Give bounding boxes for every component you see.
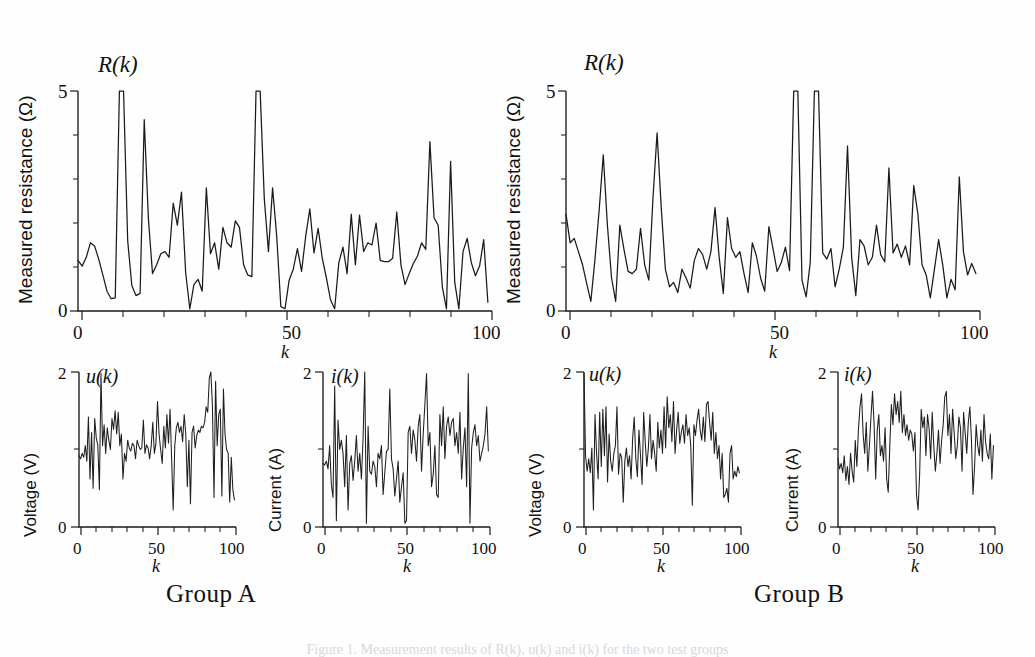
ytick-label-0: 0 [546,300,556,321]
y-axis-title-groupA-resistance: Measured resistance (Ω) [15,96,36,305]
curve-label-uk: u(k) [589,363,622,386]
y-axis-title-text: Current (A) [783,448,802,532]
figure-caption: Figure 1. Measurement results of R(k), u… [0,641,1035,657]
data-trace-groupA-resistance [78,91,488,309]
ytick-label-2: 2 [818,364,827,383]
groupB-current-svg: Current (A) i(k) 2 0 0 50 100 [762,352,1035,567]
y-axis-title-text: Voltage (V) [526,453,545,537]
data-trace-groupB-resistance [566,91,976,301]
panel-groupA-current: Current (A) i(k) 2 0 0 50 100 [245,352,515,567]
x-axis-title-k: k [911,556,920,576]
curve-label-ik: i(k) [331,365,359,388]
y-axis-title-text: Voltage (V) [21,453,40,537]
groupA-voltage-svg: Voltage (V) u(k) 2 0 0 50 100 [0,352,265,567]
xtick-label-0: 0 [317,539,326,558]
curve-label-uk: u(k) [86,365,119,388]
ytick-label-5: 5 [58,81,68,102]
panel-groupA-voltage: Voltage (V) u(k) 2 0 0 50 100 [0,352,265,567]
data-trace-groupB-voltage [584,374,739,510]
xtick-label-50: 50 [770,322,789,343]
panel-groupB-resistance: Measured resistance (Ω) R(k) 5 0 0 50 10… [488,14,1035,344]
group-label-a: Group A [166,580,256,608]
xtick-label-50: 50 [282,322,301,343]
groupB-resistance-svg: Measured resistance (Ω) R(k) 5 0 0 50 10… [488,14,1035,344]
panel-groupB-current: Current (A) i(k) 2 0 0 50 100 [762,352,1035,567]
xtick-label-0: 0 [832,539,841,558]
panel-groupA-resistance: Measured resistance (Ω) R(k) 5 0 0 50 10… [0,14,515,344]
ytick-label-0: 0 [303,518,312,537]
data-trace-groupB-current [838,391,993,510]
xtick-label-100: 100 [960,322,989,343]
x-axis-title-k: k [152,556,161,576]
xtick-label-0: 0 [73,322,83,343]
groupB-voltage-svg: Voltage (V) u(k) 2 0 0 50 100 [505,352,770,567]
x-ticks [82,311,492,320]
axes-groupA-resistance [70,91,492,320]
y-axis-title-text: Measured resistance (Ω) [503,96,524,305]
data-trace-groupA-current [323,372,488,523]
xtick-label-100: 100 [219,539,245,558]
x-axis-title-k: k [657,556,666,576]
x-ticks [570,311,980,320]
x-axis-title-k: k [403,556,412,576]
xtick-label-0: 0 [561,322,571,343]
curve-label-ik: i(k) [844,363,872,386]
ytick-label-0: 0 [58,518,67,537]
xtick-label-0: 0 [578,539,587,558]
xtick-label-100: 100 [724,539,750,558]
groupA-resistance-svg: Measured resistance (Ω) R(k) 5 0 0 50 10… [0,14,515,344]
axes-groupA-voltage [71,372,236,535]
group-label-b: Group B [754,580,844,608]
ytick-label-0: 0 [563,518,572,537]
curve-label-rk: R(k) [97,52,138,77]
y-axis-title-groupB-resistance: Measured resistance (Ω) [503,96,524,305]
xtick-label-100: 100 [978,539,1004,558]
panel-groupB-voltage: Voltage (V) u(k) 2 0 0 50 100 [505,352,770,567]
curve-label-rk: R(k) [583,50,624,75]
y-axis-title-text: Current (A) [266,448,285,532]
ytick-label-2: 2 [303,364,312,383]
ytick-label-2: 2 [58,364,67,383]
axes-groupA-current [315,372,490,535]
groupA-current-svg: Current (A) i(k) 2 0 0 50 100 [245,352,515,567]
xtick-label-100: 100 [471,539,497,558]
ytick-label-5: 5 [546,81,556,102]
y-ticks [70,91,78,311]
ytick-label-0: 0 [818,518,827,537]
data-trace-groupA-voltage [79,372,234,510]
ytick-label-0: 0 [58,300,68,321]
y-ticks [558,91,566,311]
ytick-label-2: 2 [563,364,572,383]
y-axis-title-text: Measured resistance (Ω) [15,96,36,305]
xtick-label-0: 0 [73,539,82,558]
